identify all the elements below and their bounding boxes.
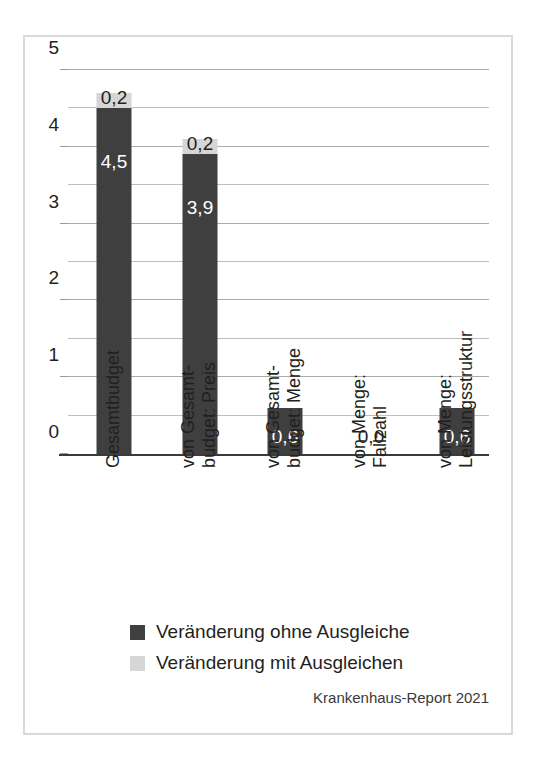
y-axis-tick-mark bbox=[60, 223, 68, 224]
y-axis-tick-label: 5 bbox=[48, 37, 59, 59]
legend-swatch-dark-icon bbox=[130, 625, 145, 640]
category-label-text: von Gesamt-budget: Menge bbox=[263, 348, 305, 468]
bar-value-label: 0,2 bbox=[97, 88, 132, 107]
y-axis-tick-mark bbox=[60, 299, 68, 300]
bar-value-label: 3,9 bbox=[183, 198, 218, 217]
bar-value-label: 0,2 bbox=[183, 134, 218, 153]
y-axis-tick-label: 3 bbox=[48, 191, 59, 213]
y-axis-tick-label: 0 bbox=[48, 421, 59, 443]
legend-swatch-light-icon bbox=[130, 656, 145, 671]
chart-legend: Veränderung ohne Ausgleiche Veränderung … bbox=[130, 620, 410, 682]
legend-item-ohne-ausgleiche: Veränderung ohne Ausgleiche bbox=[130, 620, 410, 644]
legend-label-ohne-ausgleiche: Veränderung ohne Ausgleiche bbox=[156, 621, 410, 643]
bar-value-label: 4,5 bbox=[97, 152, 132, 171]
legend-item-mit-ausgleichen: Veränderung mit Ausgleichen bbox=[130, 651, 410, 675]
gridline bbox=[68, 69, 489, 70]
category-label-text: von Menge:Fallzahl bbox=[349, 374, 391, 468]
y-axis-tick-label: 4 bbox=[48, 114, 59, 136]
y-axis-tick-label: 2 bbox=[48, 267, 59, 289]
y-axis-tick-mark bbox=[60, 146, 68, 147]
y-axis-tick-label: 1 bbox=[48, 344, 59, 366]
category-label-text: von Menge:Leistungsstruktur bbox=[435, 331, 477, 468]
y-axis-tick-mark bbox=[60, 69, 68, 70]
plot-area: 012345 4,50,23,90,20,60,00,6 Gesamtbudge… bbox=[68, 70, 489, 454]
category-label-text: Gesamtbudget bbox=[103, 350, 124, 468]
source-note: Krankenhaus-Report 2021 bbox=[313, 689, 489, 706]
y-axis-tick-mark bbox=[60, 376, 68, 377]
legend-label-mit-ausgleichen: Veränderung mit Ausgleichen bbox=[156, 652, 403, 674]
category-label-text: von Gesamt-budget: Preis bbox=[178, 362, 220, 468]
chart-figure: 012345 4,50,23,90,20,60,00,6 Gesamtbudge… bbox=[23, 35, 513, 735]
